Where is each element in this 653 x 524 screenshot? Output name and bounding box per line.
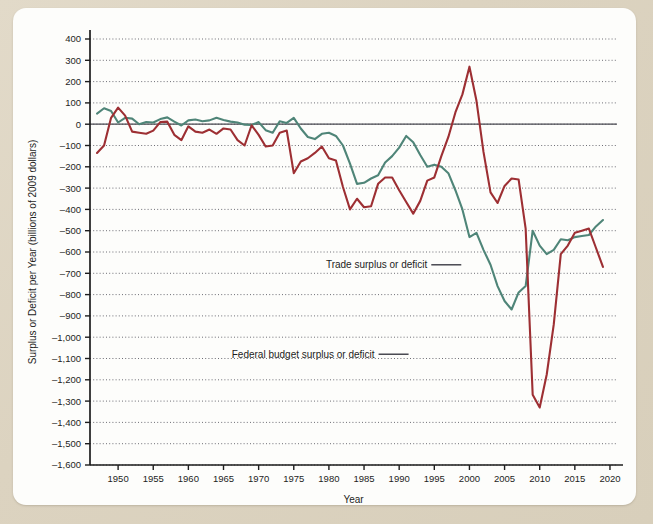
y-axis-ticks-group: 4003002001000–100–200–300–400–500–600–70…	[52, 33, 90, 470]
axis-lines-group	[90, 30, 623, 465]
x-tick-label-2010: 2010	[529, 473, 550, 484]
y-tick-label--500: –500	[60, 225, 81, 236]
x-axis-ticks-group: 1950195519601965197019751980198519901995…	[108, 465, 621, 484]
x-tick-label-1985: 1985	[353, 473, 374, 484]
x-tick-label-1950: 1950	[108, 473, 129, 484]
annotation-label-federal-budget: Federal budget surplus or deficit	[232, 349, 375, 360]
y-tick-label--1500: –1,500	[52, 438, 81, 449]
y-tick-label--700: –700	[60, 268, 81, 279]
y-tick-label--200: –200	[60, 161, 81, 172]
x-tick-label-1965: 1965	[213, 473, 234, 484]
axis-titles-group: YearSurplus or Deficit per Year (billion…	[27, 140, 364, 505]
y-tick-label-100: 100	[65, 97, 81, 108]
x-tick-label-1970: 1970	[248, 473, 269, 484]
annotation-label-trade: Trade surplus or deficit	[326, 259, 428, 270]
y-tick-label--900: –900	[60, 310, 81, 321]
y-tick-label--300: –300	[60, 183, 81, 194]
y-axis-title: Surplus or Deficit per Year (billions of…	[27, 140, 38, 365]
y-tick-label-200: 200	[65, 76, 81, 87]
y-tick-label--100: –100	[60, 140, 81, 151]
x-tick-label-1975: 1975	[283, 473, 304, 484]
y-tick-label--800: –800	[60, 289, 81, 300]
figure-root: 4003002001000–100–200–300–400–500–600–70…	[0, 0, 653, 524]
y-tick-label--600: –600	[60, 246, 81, 257]
y-tick-label--1000: –1,000	[52, 332, 81, 343]
y-tick-label-300: 300	[65, 55, 81, 66]
gridlines-group	[90, 39, 617, 465]
y-tick-label--1600: –1,600	[52, 459, 81, 470]
x-tick-label-2005: 2005	[494, 473, 515, 484]
x-tick-label-2000: 2000	[459, 473, 480, 484]
figure-card: 4003002001000–100–200–300–400–500–600–70…	[13, 8, 636, 505]
x-tick-label-2015: 2015	[564, 473, 585, 484]
x-tick-label-2020: 2020	[599, 473, 620, 484]
x-tick-label-1960: 1960	[178, 473, 199, 484]
x-tick-label-1980: 1980	[318, 473, 339, 484]
y-tick-label--1200: –1,200	[52, 374, 81, 385]
x-tick-label-1995: 1995	[424, 473, 445, 484]
y-tick-label-400: 400	[65, 33, 81, 44]
line-chart: 4003002001000–100–200–300–400–500–600–70…	[13, 8, 636, 505]
x-tick-label-1955: 1955	[143, 473, 164, 484]
x-tick-label-1990: 1990	[389, 473, 410, 484]
x-axis-title: Year	[343, 494, 364, 505]
y-tick-label-0: 0	[76, 119, 81, 130]
y-tick-label--1100: –1,100	[52, 353, 81, 364]
y-tick-label--1300: –1,300	[52, 396, 81, 407]
y-tick-label--1400: –1,400	[52, 417, 81, 428]
series-annotations-group: Trade surplus or deficitFederal budget s…	[232, 259, 462, 359]
y-tick-label--400: –400	[60, 204, 81, 215]
